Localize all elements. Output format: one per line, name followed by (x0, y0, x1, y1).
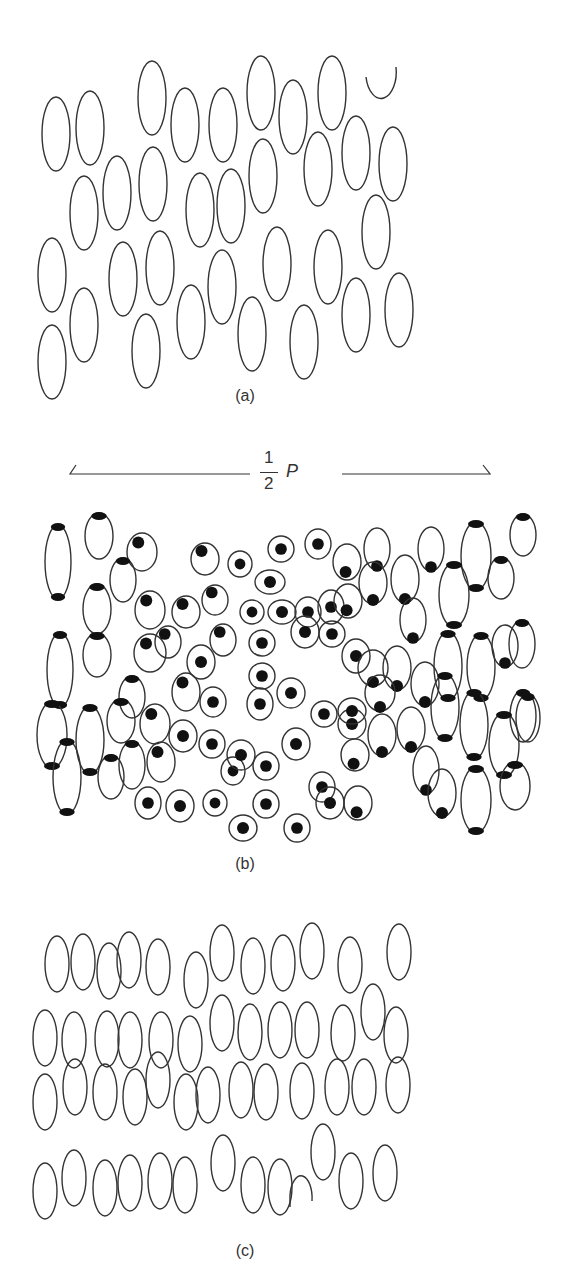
cell-with-nucleus (368, 714, 396, 758)
nucleus (51, 593, 65, 601)
cell (339, 1153, 363, 1209)
cell (95, 1011, 119, 1067)
cell-with-nucleus (37, 700, 67, 770)
cell-with-nucleus (140, 704, 170, 744)
cell (386, 1057, 410, 1113)
cell-with-nucleus (418, 527, 444, 573)
cell (342, 278, 370, 352)
nucleus (291, 822, 303, 834)
cell-with-nucleus (47, 631, 73, 709)
cell (33, 1010, 57, 1066)
nucleus (51, 523, 65, 531)
nucleus (285, 687, 297, 699)
cell-with-nucleus (110, 557, 136, 602)
cell (325, 1059, 349, 1115)
nucleus (256, 637, 268, 649)
cell-membrane (460, 691, 488, 759)
nucleus (142, 797, 154, 809)
cell (268, 1002, 292, 1058)
nucleus (350, 650, 362, 662)
nucleus (237, 822, 249, 834)
cell (211, 1135, 235, 1191)
cell-with-nucleus (344, 786, 372, 820)
nucleus (276, 606, 288, 618)
cell-with-nucleus (253, 790, 279, 818)
nucleus (235, 749, 247, 761)
nucleus (468, 765, 484, 773)
cell (384, 1007, 408, 1063)
nucleus (125, 675, 139, 683)
panel-label-c: (c) (236, 1242, 255, 1260)
cell-with-nucleus (413, 746, 439, 796)
cell (379, 127, 407, 201)
cell-with-nucleus (247, 688, 273, 720)
nucleus (206, 587, 218, 599)
nucleus (260, 760, 272, 772)
cell-with-nucleus (383, 646, 411, 692)
nucleus (125, 740, 139, 748)
nucleus (341, 604, 353, 616)
cell (373, 1145, 397, 1201)
nucleus (324, 797, 336, 809)
cell-with-nucleus (397, 707, 425, 753)
dimension-label: 1 2 P (258, 448, 328, 498)
cell-with-nucleus (172, 673, 200, 711)
cell-with-nucleus (318, 590, 344, 624)
nucleus (59, 738, 74, 746)
cell (210, 995, 234, 1051)
cell (271, 935, 295, 991)
cell-with-nucleus (342, 639, 370, 673)
cell-with-nucleus (135, 591, 165, 629)
panel-c-partial-cell (290, 1176, 312, 1207)
cell-with-nucleus (460, 689, 488, 761)
nucleus (196, 545, 208, 557)
cell-with-nucleus (85, 512, 113, 559)
cell (149, 1012, 173, 1068)
nucleus (407, 632, 419, 644)
cell-with-nucleus (291, 616, 319, 648)
cell-with-nucleus (500, 761, 530, 810)
nucleus (521, 693, 534, 701)
nucleus (299, 626, 311, 638)
cell (331, 1005, 355, 1061)
nucleus (391, 680, 403, 692)
fraction-denominator: 2 (264, 474, 273, 494)
nucleus (214, 626, 226, 638)
cell-with-nucleus (53, 738, 81, 816)
nucleus (177, 598, 189, 610)
cell (295, 1002, 319, 1058)
nucleus (468, 827, 484, 835)
cell-membrane (45, 525, 71, 599)
nucleus (91, 512, 106, 520)
nucleus (340, 566, 352, 578)
nucleus (446, 561, 462, 569)
cell-with-nucleus (169, 720, 197, 752)
nucleus (496, 771, 512, 779)
cell-with-nucleus (311, 701, 337, 727)
cell-membrane (434, 632, 462, 700)
nucleus (446, 621, 462, 629)
nucleus (466, 689, 481, 697)
cell-with-nucleus (431, 672, 459, 742)
cell-with-nucleus (439, 561, 469, 629)
cell (123, 1069, 147, 1125)
cell (311, 1124, 335, 1180)
nucleus (177, 730, 189, 742)
panel-label-b: (b) (235, 855, 255, 873)
nucleus (440, 630, 455, 638)
cell (33, 1074, 57, 1130)
cell-membrane (500, 762, 530, 810)
cell (174, 1074, 198, 1130)
panel-b-cells (37, 512, 540, 842)
nucleus (437, 672, 452, 680)
cell-with-nucleus (134, 634, 166, 672)
nucleus (82, 768, 97, 776)
cell (268, 1159, 292, 1215)
figure-canvas (0, 0, 567, 1273)
cell (209, 88, 237, 162)
cell-with-nucleus (277, 678, 305, 708)
cell (38, 238, 66, 312)
cell (263, 227, 291, 301)
cell-with-nucleus (119, 740, 145, 789)
panel-c-cells (33, 923, 411, 1219)
